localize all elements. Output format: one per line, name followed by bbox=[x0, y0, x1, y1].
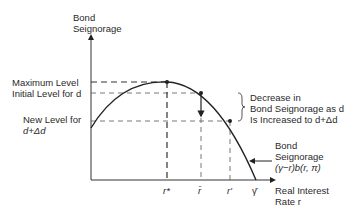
x-axis-label: Real Interest Rate r bbox=[275, 185, 329, 207]
max-point bbox=[165, 80, 169, 84]
new-point bbox=[228, 119, 232, 123]
annotation-line1: Decrease in bbox=[250, 92, 344, 103]
decrease-annotation: Decrease in Bond Seignorage as d Is Incr… bbox=[250, 92, 344, 125]
new-level-line2: d+Δd bbox=[23, 125, 81, 136]
curve-label-line3: (γ−r)b(r, π) bbox=[275, 162, 324, 173]
new-level-label: New Level for d+Δd bbox=[23, 114, 81, 136]
tick-r-prime: r′ bbox=[227, 185, 232, 196]
curve-label-line2: Seignorage bbox=[275, 151, 324, 162]
annotation-line2: Bond Seignorage as d bbox=[250, 103, 344, 114]
tick-gamma-bar: γ̄ bbox=[252, 185, 257, 196]
x-axis-label-line2: Rate r bbox=[275, 196, 329, 207]
tick-r-star: r* bbox=[163, 185, 170, 196]
initial-level-label: Initial Level for d bbox=[12, 88, 81, 99]
y-axis-label-line1: Bond bbox=[73, 12, 122, 23]
max-level-label: Maximum Level bbox=[12, 77, 79, 88]
y-axis-label: Bond Seignorage bbox=[73, 12, 122, 34]
new-level-line1: New Level for bbox=[23, 114, 81, 125]
tick-r-bar: r̄ bbox=[198, 185, 201, 196]
x-axis-label-line1: Real Interest bbox=[275, 185, 329, 196]
annotation-line3: Is Increased to d+Δd bbox=[250, 114, 344, 125]
curve-label: Bond Seignorage (γ−r)b(r, π) bbox=[275, 140, 324, 173]
seignorage-curve bbox=[91, 82, 256, 180]
y-axis-label-line2: Seignorage bbox=[73, 23, 122, 34]
brace bbox=[238, 93, 245, 121]
curve-label-line1: Bond bbox=[275, 140, 324, 151]
